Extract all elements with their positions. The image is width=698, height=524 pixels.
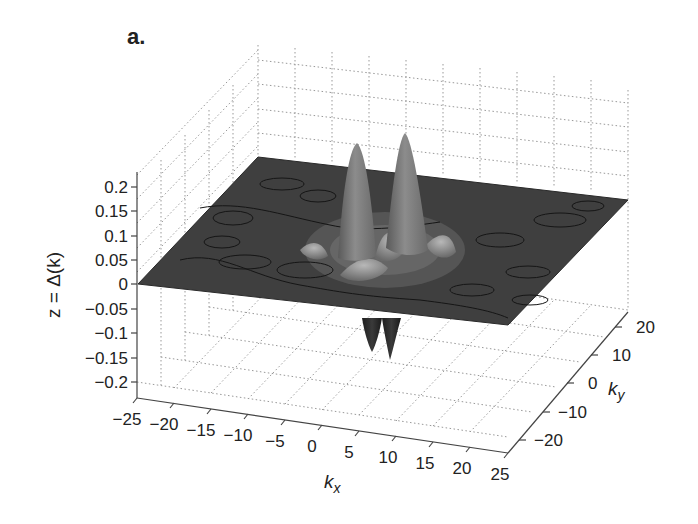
svg-text:0.05: 0.05 bbox=[95, 251, 128, 270]
svg-text:20: 20 bbox=[453, 459, 472, 478]
y-axis-label: ky bbox=[608, 378, 626, 403]
svg-text:0: 0 bbox=[119, 275, 128, 294]
surface bbox=[138, 157, 628, 325]
negative-peaks bbox=[362, 318, 401, 360]
x-tick-labels: −25 −20 −15 −10 −5 0 5 10 15 20 25 bbox=[113, 410, 510, 484]
surface-plot: 0.2 0.15 0.1 0.05 0 −0.05 −0.1 −0.15 −0.… bbox=[0, 0, 698, 524]
svg-text:−0.1: −0.1 bbox=[94, 324, 128, 343]
svg-text:5: 5 bbox=[344, 443, 353, 462]
svg-text:−10: −10 bbox=[558, 403, 587, 422]
svg-text:−15: −15 bbox=[187, 421, 216, 440]
svg-text:0: 0 bbox=[307, 437, 316, 456]
y-tick-labels: −20 −10 0 10 20 bbox=[534, 318, 655, 450]
svg-text:−25: −25 bbox=[113, 410, 142, 429]
svg-text:−10: −10 bbox=[224, 426, 253, 445]
x-axis-label: kx bbox=[324, 471, 342, 496]
svg-text:−5: −5 bbox=[265, 432, 284, 451]
svg-text:15: 15 bbox=[416, 454, 435, 473]
svg-text:0.1: 0.1 bbox=[104, 227, 128, 246]
svg-text:0.15: 0.15 bbox=[95, 202, 128, 221]
svg-text:−0.15: −0.15 bbox=[85, 349, 128, 368]
svg-text:10: 10 bbox=[612, 346, 631, 365]
svg-text:−0.2: −0.2 bbox=[94, 373, 128, 392]
svg-text:0: 0 bbox=[588, 374, 597, 393]
svg-text:−0.05: −0.05 bbox=[85, 300, 128, 319]
svg-text:−20: −20 bbox=[534, 431, 563, 450]
svg-text:20: 20 bbox=[636, 318, 655, 337]
z-tick-labels: 0.2 0.15 0.1 0.05 0 −0.05 −0.1 −0.15 −0.… bbox=[85, 178, 128, 392]
svg-text:25: 25 bbox=[491, 465, 510, 484]
svg-text:−20: −20 bbox=[150, 415, 179, 434]
z-axis bbox=[131, 172, 137, 398]
svg-text:10: 10 bbox=[379, 448, 398, 467]
z-axis-label: z = Δ(k) bbox=[43, 252, 64, 318]
svg-text:0.2: 0.2 bbox=[104, 178, 128, 197]
